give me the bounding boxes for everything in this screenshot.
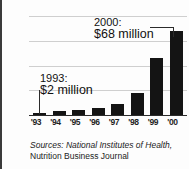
x-tick-96: '96: [85, 117, 105, 127]
source-line-1: Sources: National Institutes of Health,: [30, 140, 189, 151]
chart-figure: $80 60 40 20 0 '93 '94 '95 '96 '97 '98 '…: [0, 0, 189, 169]
bar-97: [111, 104, 124, 115]
axis-baseline: [29, 115, 187, 116]
x-tick-99: '99: [143, 117, 163, 127]
x-axis-labels: '93 '94 '95 '96 '97 '98 '99 '00: [29, 117, 187, 131]
source-line-2: Nutrition Business Journal: [30, 151, 189, 162]
x-tick-94: '94: [46, 117, 66, 127]
annotation-2000-leader-horizontal: [150, 27, 174, 28]
bar-95: [72, 110, 85, 115]
bar-94: [53, 111, 66, 115]
x-tick-98: '98: [124, 117, 144, 127]
annotation-1993: 1993: $2 million: [40, 72, 93, 96]
bar-98: [131, 93, 144, 115]
x-tick-97: '97: [104, 117, 124, 127]
bar-99: [150, 58, 163, 115]
bar-96: [92, 108, 105, 115]
x-tick-93: '93: [26, 117, 46, 127]
x-tick-00: '00: [163, 117, 183, 127]
annotation-2000-value: $68 million: [94, 28, 154, 40]
x-tick-95: '95: [65, 117, 85, 127]
source-note: Sources: National Institutes of Health, …: [30, 140, 189, 162]
annotation-2000: 2000: $68 million: [94, 16, 154, 40]
annotation-2000-leader-vertical: [173, 27, 174, 37]
annotation-1993-leader: [39, 90, 40, 114]
annotation-1993-value: $2 million: [40, 84, 93, 96]
bar-00: [170, 31, 183, 115]
